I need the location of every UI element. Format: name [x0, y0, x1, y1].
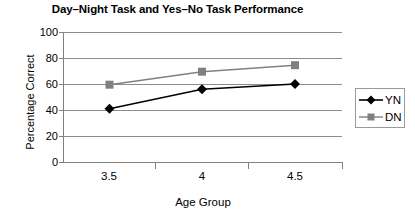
x-tick-label: 4.5 [265, 170, 325, 182]
legend-swatch-yn [358, 92, 384, 108]
x-axis-label: Age Group [63, 196, 343, 208]
legend-item-dn[interactable]: DN [356, 109, 406, 125]
x-tick-label: 4 [172, 170, 232, 182]
legend: YN DN [355, 88, 405, 128]
gridlines [63, 33, 342, 137]
legend-swatch-dn [358, 109, 384, 125]
legend-item-yn[interactable]: YN [356, 92, 406, 108]
x-tick-label: 3.5 [79, 170, 139, 182]
plot-area [0, 0, 415, 222]
legend-label-dn: DN [385, 110, 402, 124]
x-axis-ticks [156, 162, 343, 169]
y-axis-ticks [59, 33, 63, 163]
chart-container: Day–Night Task and Yes–No Task Performan… [0, 0, 415, 222]
legend-label-yn: YN [385, 93, 401, 107]
